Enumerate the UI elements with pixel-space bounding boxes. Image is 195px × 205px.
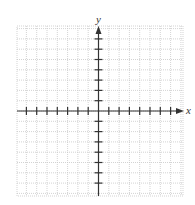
y-axis-arrow-icon — [96, 26, 102, 34]
x-axis-label: x — [186, 105, 191, 116]
y-axis-label: y — [96, 14, 101, 25]
axes — [17, 26, 184, 196]
coordinate-plane — [0, 0, 195, 205]
